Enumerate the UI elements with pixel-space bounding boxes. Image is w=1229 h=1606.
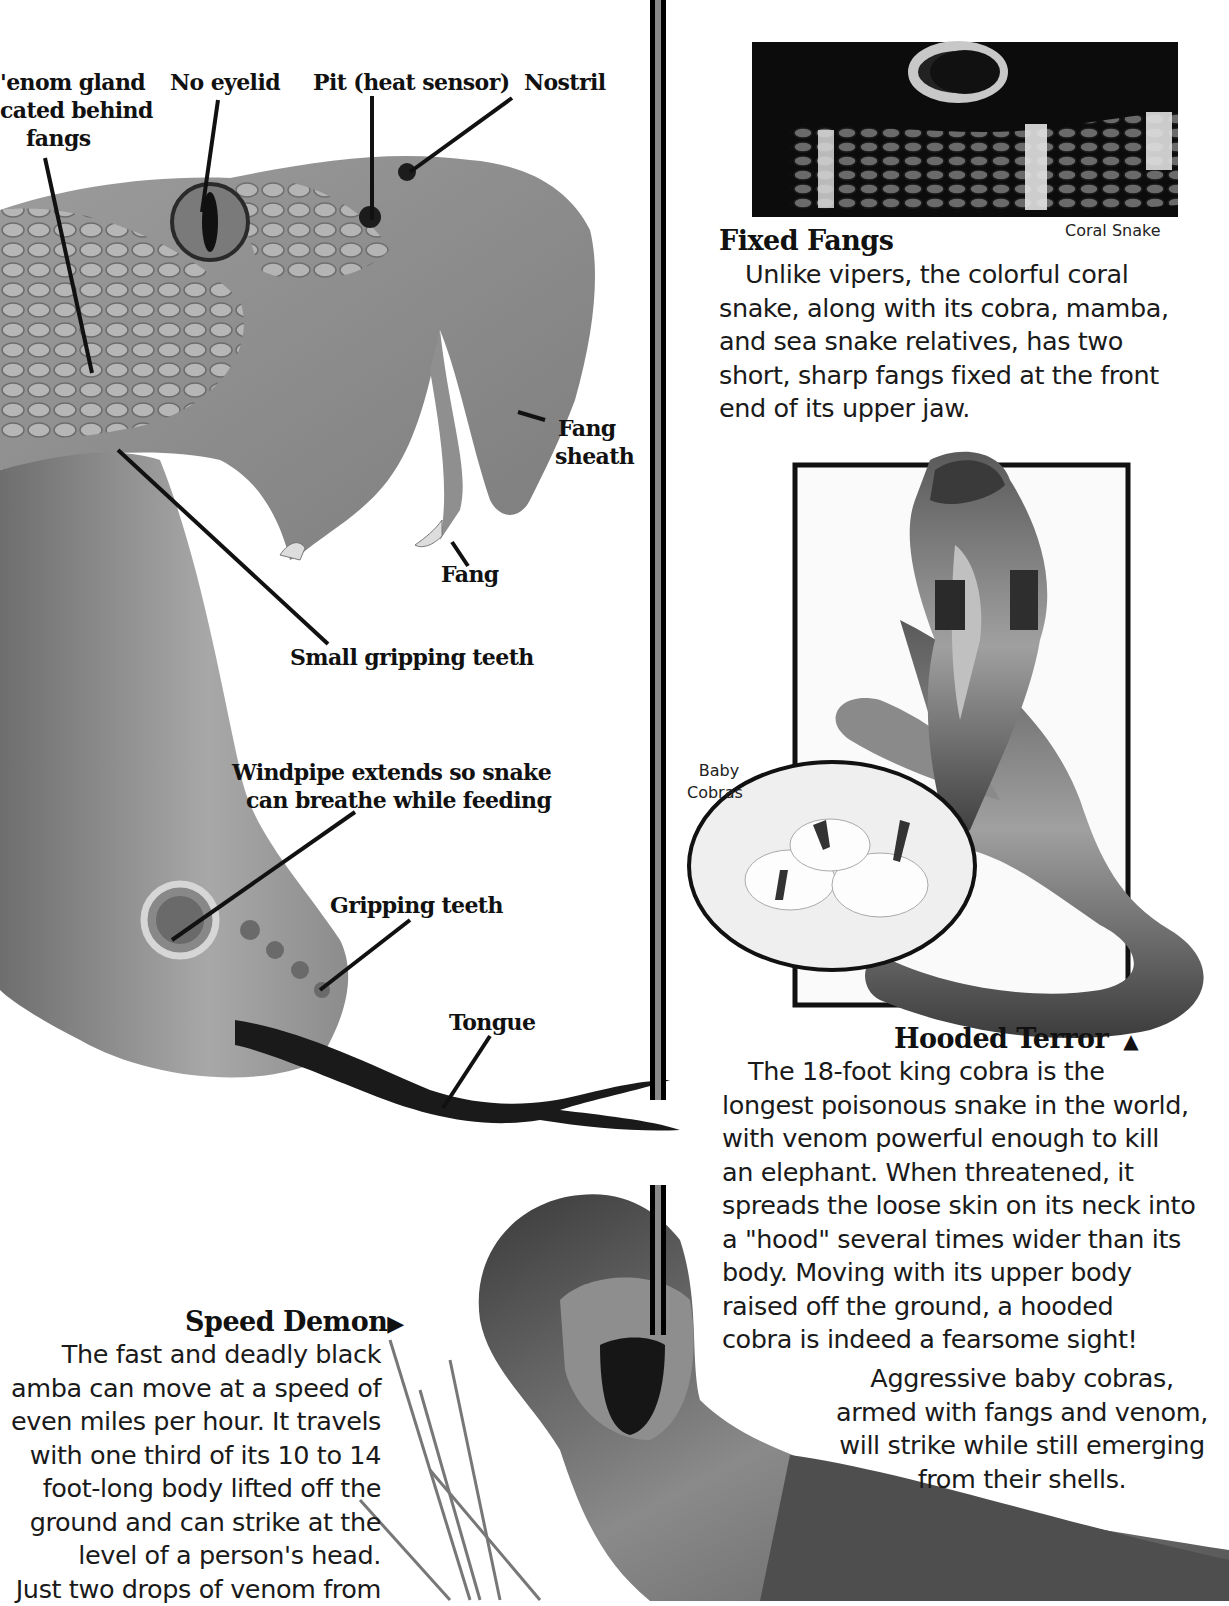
label-fang-sheath: Fang sheath — [555, 414, 634, 470]
hooded-terror-body: The 18-foot king cobra is the longest po… — [722, 1055, 1229, 1357]
label-small-gripping-teeth: Small gripping teeth — [290, 643, 534, 671]
label-nostril: Nostril — [524, 68, 605, 96]
speed-demon-heading: Speed Demon▶ — [185, 1306, 404, 1339]
triangle-right-icon: ▶ — [387, 1310, 403, 1336]
column-divider — [650, 0, 666, 1100]
coral-snake-photo — [752, 42, 1178, 217]
baby-cobras-label: Baby Cobras — [687, 760, 743, 804]
label-gripping-teeth: Gripping teeth — [330, 891, 503, 919]
label-venom-gland: 'enom gland cated behind fangs — [0, 68, 153, 152]
triangle-up-icon: ▲ — [1117, 1029, 1138, 1053]
label-tongue: Tongue — [449, 1008, 535, 1036]
label-fang: Fang — [441, 560, 499, 588]
column-divider-lower — [650, 1185, 666, 1335]
label-no-eyelid: No eyelid — [170, 68, 280, 96]
coral-snake-caption: Coral Snake — [1065, 220, 1161, 242]
fixed-fangs-body: Unlike vipers, the colorful coral snake,… — [719, 258, 1219, 426]
hooded-terror-heading: Hooded Terror ▲ — [894, 1023, 1138, 1057]
fixed-fangs-heading: Fixed Fangs — [719, 225, 893, 257]
baby-cobras-caption: Aggressive baby cobras, armed with fangs… — [820, 1362, 1224, 1496]
label-pit: Pit (heat sensor) — [313, 68, 509, 96]
label-windpipe: Windpipe extends so snake can breathe wh… — [232, 758, 551, 814]
speed-demon-body: The fast and deadly black amba can move … — [0, 1338, 381, 1606]
